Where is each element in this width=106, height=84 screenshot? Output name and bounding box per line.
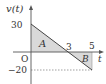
x-tick-5-label: 5 <box>89 41 95 51</box>
y-tick-minus-20-label: −20 <box>8 65 27 75</box>
t-axis-label: t <box>98 54 102 64</box>
x-tick-3-label: 3 <box>66 42 72 52</box>
velocity-time-graph: v(t) 30 −20 O 3 5 t A B <box>0 0 106 84</box>
region-a-label: A <box>38 38 46 49</box>
v-axis-label: v(t) <box>6 3 24 14</box>
y-tick-30-label: 30 <box>11 20 23 30</box>
v-axis-arrow-icon <box>29 5 33 10</box>
origin-label: O <box>21 54 28 64</box>
region-b-label: B <box>81 54 89 64</box>
